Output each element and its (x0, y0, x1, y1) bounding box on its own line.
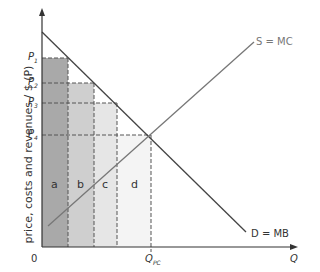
price-label-p4: P4 (28, 128, 38, 141)
price-label-p1: P1 (28, 51, 38, 64)
quantity-label-qpc: QPC (145, 253, 161, 266)
y-axis-arrow-icon (39, 8, 45, 16)
origin-label: 0 (31, 253, 37, 264)
demand-label: D = MB (251, 228, 289, 239)
price-label-p3: P3 (28, 96, 38, 109)
area-label-a: a (51, 178, 58, 191)
y-axis-label: price, costs and revenues / $ (P) (22, 65, 35, 245)
area-label-b: b (77, 178, 84, 191)
area-b (68, 83, 94, 247)
x-axis-arrow-icon (290, 244, 298, 250)
x-axis-label: Q (290, 253, 298, 264)
supply-label: S = MC (256, 36, 293, 47)
area-label-c: c (102, 178, 108, 191)
price-label-p2: P2 (28, 76, 38, 89)
area-d (117, 135, 151, 247)
area-label-d: d (131, 178, 138, 191)
area-a (42, 58, 68, 247)
